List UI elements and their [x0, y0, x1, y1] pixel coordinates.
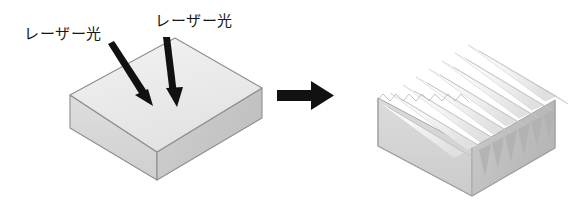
- laser-texturing-figure: レーザー光 レーザー光: [0, 0, 588, 210]
- laser-label-left: レーザー光: [24, 27, 102, 42]
- laser-label-right: レーザー光: [155, 14, 233, 29]
- process-arrow: [277, 81, 334, 110]
- process-arrow-head: [311, 81, 334, 110]
- grooved-block-front-left-face: [378, 98, 472, 196]
- grooved-block: [377, 45, 568, 196]
